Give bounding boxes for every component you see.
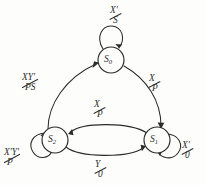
label-transition-s2-to-s0: XY' PS [20, 73, 39, 93]
state-label-s2-sub: 2 [53, 138, 56, 145]
label-transition-s2-to-s0-output: PS [20, 83, 39, 92]
label-transition-s1-to-s2: X P [92, 100, 106, 120]
state-label-s1-sub: 1 [155, 138, 158, 145]
self-loop-s0 [100, 26, 123, 49]
transition-s1-to-s2-arrowhead [68, 129, 74, 135]
self-loop-s0-arrowhead [115, 44, 122, 48]
state-label-s0: S0 [104, 54, 112, 66]
state-label-s1: S1 [150, 134, 158, 146]
label-transition-s0-to-s1: X P [147, 74, 161, 94]
state-label-s2: S2 [48, 134, 56, 146]
label-self-loop-s1: X' 0 [180, 141, 194, 161]
state-label-s0-sub: 0 [109, 58, 112, 65]
transition-s2-to-s1 [66, 145, 146, 156]
label-transition-s2-to-s0-input: XY' [20, 73, 39, 82]
transition-s2-to-s0-path [48, 64, 96, 129]
transition-s1-to-s2 [68, 125, 147, 136]
transition-s2-to-s1-path [66, 147, 143, 155]
label-transition-s2-to-s1: Y 0 [93, 160, 107, 180]
transition-s1-to-s2-path [71, 125, 147, 133]
label-self-loop-s2-input: X'Y' [2, 148, 21, 157]
label-self-loop-s0: X' S [108, 6, 122, 26]
label-self-loop-s2: X'Y' P [2, 148, 21, 168]
state-transition-diagram: S0 S2 S1 X' S XY' PS X P X P Y 0 X'Y' [0, 0, 205, 185]
label-self-loop-s2-output: P [2, 158, 21, 167]
